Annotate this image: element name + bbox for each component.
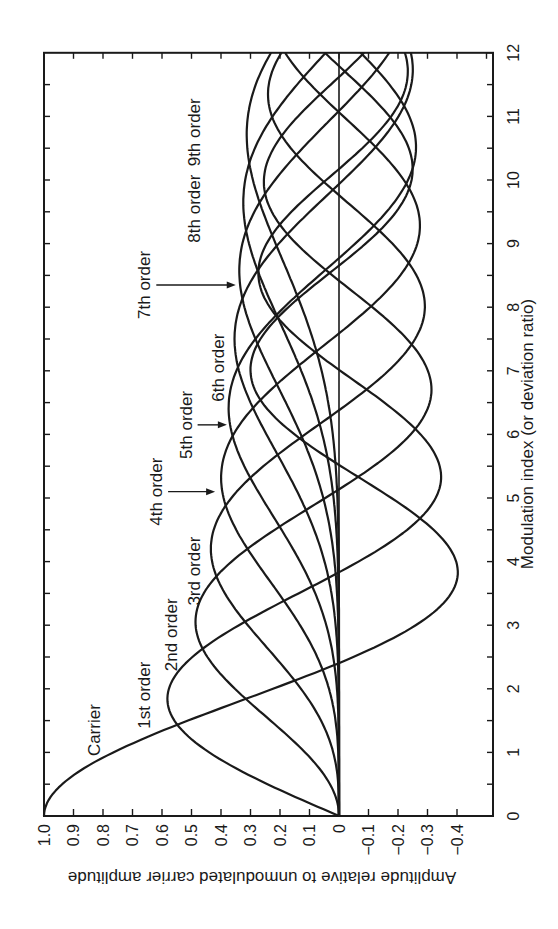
curve-label: Carrier	[85, 704, 104, 756]
y-tick-label: 0	[331, 824, 348, 833]
curve-labels: Carrier1st order2nd order3rd order4th or…	[85, 98, 236, 756]
curve-order-8	[243, 53, 339, 816]
y-tick-label: −0.2	[390, 824, 407, 856]
curve-label: 6th order	[209, 333, 228, 401]
curve-label: 9th order	[185, 98, 204, 166]
y-tick-label: 0.2	[272, 824, 289, 846]
y-tick-label: 0.3	[242, 824, 259, 846]
y-tick-label: −0.1	[360, 824, 377, 856]
curve-order-2	[196, 53, 432, 816]
curve-order-6	[235, 53, 413, 816]
x-tick-label: 2	[505, 684, 522, 693]
y-tick-label: −0.4	[449, 824, 466, 856]
y-tick-label: 1.0	[36, 824, 53, 846]
x-axis-label: Modulation index (or deviation ratio)	[518, 299, 537, 569]
y-tick-label: 0.7	[124, 824, 141, 846]
y-tick-label: 0.5	[183, 824, 200, 846]
y-tick-label: 0.6	[154, 824, 171, 846]
x-tick-label: 12	[505, 44, 522, 62]
curve-label: 2nd order	[162, 598, 181, 671]
curve-label: 7th order	[135, 251, 154, 319]
curve-label: 5th order	[177, 391, 196, 459]
curve-label: 3rd order	[185, 536, 204, 605]
curve-order-7	[239, 53, 389, 816]
x-tick-label: 3	[505, 621, 522, 630]
y-tick-label: 0.8	[95, 824, 112, 846]
x-tick-label: 9	[505, 239, 522, 248]
bessel-sideband-chart: 0123456789101112 1.00.90.80.70.60.50.40.…	[0, 0, 558, 929]
curve-label: 8th order	[185, 174, 204, 242]
series-curves	[44, 53, 458, 816]
y-axis-label: Amplitude relative to unmodulated carrie…	[68, 868, 456, 887]
plot-frame	[44, 53, 493, 816]
curve-label: 4th order	[147, 457, 166, 525]
x-tick-label: 11	[505, 108, 522, 125]
curve-label: 1st order	[135, 661, 154, 728]
x-tick-label: 10	[505, 171, 522, 189]
x-tick-label: 1	[505, 748, 522, 757]
y-tick-label: −0.3	[419, 824, 436, 856]
y-tick-label: 0.9	[65, 824, 82, 846]
x-tick-label: 0	[505, 811, 522, 820]
y-tick-label: 0.1	[301, 824, 318, 846]
y-tick-label: 0.4	[213, 824, 230, 846]
